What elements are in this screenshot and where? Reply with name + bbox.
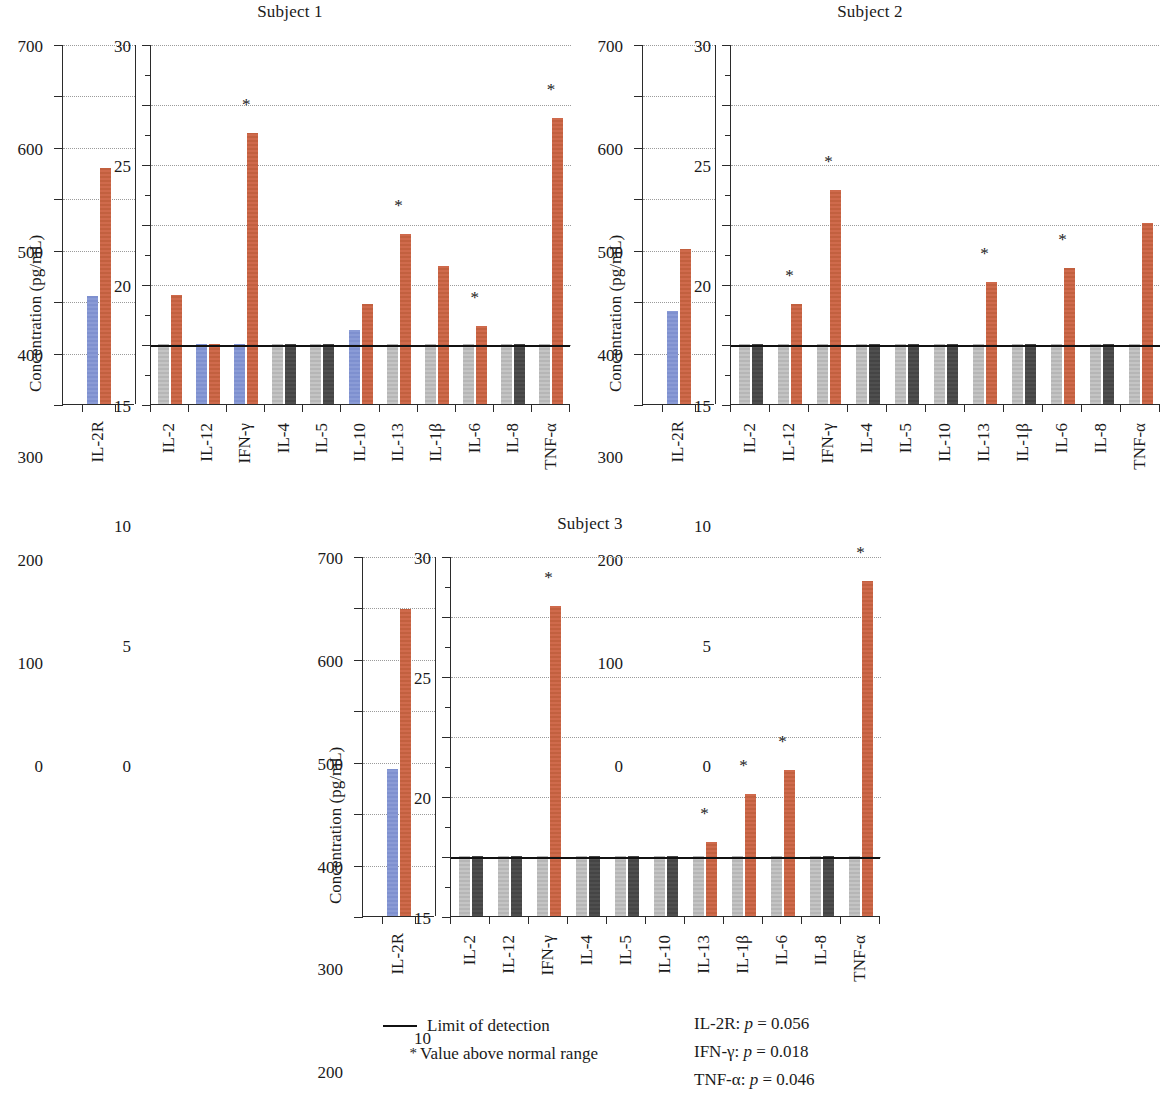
- x-label-cell: IL-4: [265, 417, 303, 418]
- bar-red: [476, 326, 487, 404]
- y-ticklabel-left: 600: [598, 140, 624, 157]
- x-tick: [341, 405, 379, 412]
- il2r-bar-group: [643, 45, 714, 404]
- x-label-cell: IFN-γ: [528, 929, 567, 930]
- limit-of-detection-line: [451, 857, 880, 859]
- bar-red: [362, 304, 373, 404]
- x-category-label: IL-12: [779, 423, 799, 462]
- y-tick-right: 5: [722, 345, 731, 346]
- bar-lgray: [1129, 344, 1140, 404]
- y-ticklabel-right: 15: [114, 398, 131, 415]
- bar-group: *: [809, 45, 848, 404]
- bar-lgray: [1051, 344, 1062, 404]
- il2r-right-edge: [135, 45, 136, 404]
- x-tick: [848, 405, 887, 412]
- bar-lgray: [158, 344, 169, 404]
- bar-blue: [196, 344, 207, 404]
- chart-panel-1: Subject 1Concentration (pg/mL)0100200300…: [0, 0, 580, 500]
- p-value-row: IFN-γ: p = 0.018: [694, 1038, 815, 1066]
- y-ticklabel-left: 700: [318, 550, 344, 567]
- il2r-axis-bracket: [382, 917, 416, 924]
- x-category-label: IL-4: [857, 423, 877, 453]
- x-tick: [724, 917, 763, 924]
- y-tick-left: 100: [634, 354, 643, 355]
- y-ticklabel-left: 500: [318, 755, 344, 772]
- x-label-cell: IFN-γ: [226, 417, 264, 418]
- bar-blue: [667, 311, 678, 404]
- il2r-bars: [363, 557, 434, 916]
- x-tick: [189, 405, 227, 412]
- x-tick: [926, 405, 965, 412]
- bar-group: *: [965, 45, 1004, 404]
- y-tick-left: 100: [54, 354, 63, 355]
- p-value-row: IL-2R: p = 0.056: [694, 1010, 815, 1038]
- y-tick-right: 5: [142, 345, 151, 346]
- bar-group: [490, 557, 529, 916]
- y-tick-left: 400: [354, 711, 363, 712]
- bar-lgray: [615, 856, 626, 916]
- bar-group: [1082, 45, 1121, 404]
- p-value-number: = 0.056: [753, 1014, 809, 1033]
- x-label-cell: IL-1β: [1004, 417, 1043, 418]
- bar-red: [400, 609, 411, 916]
- bar-lgray: [934, 344, 945, 404]
- bar-red: [830, 190, 841, 404]
- bar-group: [341, 45, 379, 404]
- x-category-label: IL-6: [1052, 423, 1072, 453]
- x-axis-ticks: [150, 405, 570, 412]
- p-value-number: = 0.046: [758, 1070, 814, 1089]
- x-tick: [770, 405, 809, 412]
- y-ticklabel-right: 10: [114, 518, 131, 535]
- p-value-analyte: IL-2R:: [694, 1014, 745, 1033]
- y-tick-right: 30: [722, 45, 731, 46]
- bar-group: [451, 557, 490, 916]
- bar-dgray: [947, 344, 958, 404]
- y-tick-left: 600: [54, 96, 63, 97]
- y-tick-left: 500: [54, 148, 63, 149]
- bar-group: [646, 557, 685, 916]
- y-ticklabel-right: 20: [414, 790, 431, 807]
- bar-lgray: [778, 344, 789, 404]
- bar-blue: [234, 344, 245, 404]
- bar-lgray: [387, 344, 398, 404]
- x-tick: [887, 405, 926, 412]
- bar-red: [680, 249, 691, 404]
- bar-group: *: [1043, 45, 1082, 404]
- y-ticklabel-right: 20: [114, 278, 131, 295]
- bar-blue: [387, 769, 398, 916]
- bar-red: [100, 168, 111, 404]
- bar-dgray: [472, 856, 483, 916]
- value-above-normal-star: *: [700, 805, 709, 822]
- x-label-cell: IL-2: [730, 417, 769, 418]
- y-tick-right: 25: [722, 105, 731, 106]
- y-ticklabel-right: 30: [694, 38, 711, 55]
- p-symbol: p: [750, 1070, 759, 1089]
- y-ticklabel-left: 200: [318, 1064, 344, 1081]
- bar-lgray: [463, 344, 474, 404]
- bar-dgray: [511, 856, 522, 916]
- x-axis-labels: IL-2IL-12IFN-γIL-4IL-5IL-10IL-13IL-1βIL-…: [450, 929, 880, 930]
- x-category-label: IL-13: [694, 935, 714, 974]
- bar-dgray: [1103, 344, 1114, 404]
- legend-label-star: Value above normal range: [420, 1040, 598, 1068]
- bar-lgray: [1012, 344, 1023, 404]
- x-tick: [646, 917, 685, 924]
- il2r-plot: 0100200300400500600700: [62, 45, 134, 405]
- bar-group: [802, 557, 841, 916]
- y-ticklabel-left: 700: [18, 38, 44, 55]
- bar-lgray: [693, 856, 704, 916]
- bar-group: *: [227, 45, 265, 404]
- x-tick: [303, 405, 341, 412]
- il2r-axis-bracket: [662, 405, 696, 412]
- x-tick: [418, 405, 456, 412]
- x-label-cell: IL-12: [188, 417, 226, 418]
- bar-dgray: [908, 344, 919, 404]
- x-category-label: IL-8: [503, 423, 523, 453]
- x-label-cell: IL-13: [379, 417, 417, 418]
- y-ticklabel-right: 0: [123, 758, 132, 775]
- y-tick-left: 300: [54, 251, 63, 252]
- y-tick-right: 15: [442, 737, 451, 738]
- il2r-axis-bracket: [82, 405, 116, 412]
- y-ticklabel-left: 0: [35, 758, 44, 775]
- bar-group: *: [456, 45, 494, 404]
